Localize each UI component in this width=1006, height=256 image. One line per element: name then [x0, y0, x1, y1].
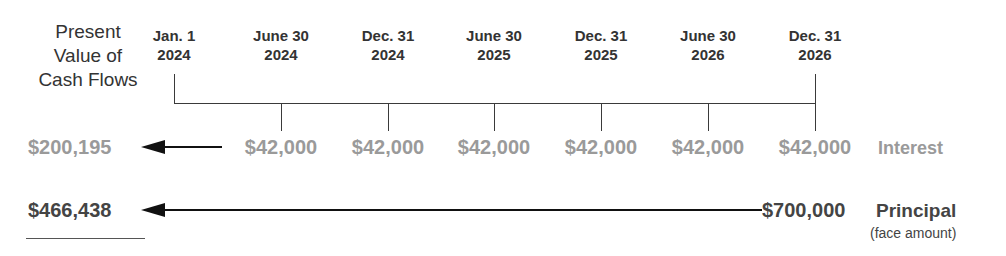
timeline-tick: [494, 103, 495, 131]
present-value-header-line-3: Cash Flows: [18, 68, 158, 92]
date-label-2: Dec. 31 2024: [333, 26, 443, 64]
date-label-day: June 30: [226, 26, 336, 45]
interest-arrow-shaft: [160, 146, 222, 148]
date-label-day: Dec. 31: [333, 26, 443, 45]
timeline-tick: [388, 103, 389, 131]
principal-label: Principal: [876, 198, 956, 224]
interest-present-value: $200,195: [28, 134, 111, 160]
timeline-axis: [174, 103, 816, 104]
date-label-year: 2025: [439, 45, 549, 64]
date-label-5: June 30 2026: [653, 26, 763, 64]
principal-present-value: $466,438: [28, 197, 111, 223]
principal-amount: $700,000: [762, 197, 845, 223]
date-label-1: June 30 2024: [226, 26, 336, 64]
interest-payment: $42,000: [439, 134, 549, 160]
date-label-day: June 30: [439, 26, 549, 45]
date-label-4: Dec. 31 2025: [546, 26, 656, 64]
date-label-3: June 30 2025: [439, 26, 549, 64]
date-label-year: 2024: [226, 45, 336, 64]
date-label-6: Dec. 31 2026: [760, 26, 870, 64]
timeline-tick: [601, 103, 602, 131]
date-label-day: Dec. 31: [760, 26, 870, 45]
timeline-end-tick: [815, 74, 816, 131]
date-label-year: 2025: [546, 45, 656, 64]
date-label-year: 2024: [333, 45, 443, 64]
date-label-year: 2026: [653, 45, 763, 64]
interest-payment: $42,000: [226, 134, 336, 160]
interest-payment: $42,000: [760, 134, 870, 160]
interest-payment: $42,000: [333, 134, 443, 160]
date-label-year: 2024: [119, 45, 229, 64]
date-label-0: Jan. 1 2024: [119, 26, 229, 64]
date-label-day: Dec. 31: [546, 26, 656, 45]
timeline-tick: [708, 103, 709, 131]
principal-arrow-shaft: [160, 209, 762, 211]
interest-label: Interest: [878, 135, 943, 161]
interest-payment: $42,000: [653, 134, 763, 160]
face-amount-note: (face amount): [870, 224, 956, 242]
timeline-start-tick: [174, 74, 175, 104]
interest-payment: $42,000: [546, 134, 656, 160]
date-label-day: June 30: [653, 26, 763, 45]
timeline-tick: [281, 103, 282, 131]
date-label-year: 2026: [760, 45, 870, 64]
total-underline: [26, 238, 145, 239]
date-label-day: Jan. 1: [119, 26, 229, 45]
